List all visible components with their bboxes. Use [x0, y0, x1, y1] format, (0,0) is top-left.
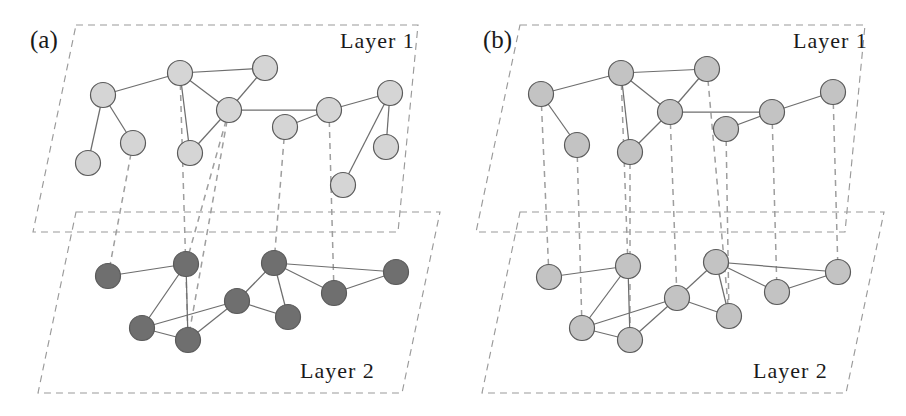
figure-canvas: Layer 1Layer 2(a)Layer 1Layer 2(b): [0, 0, 906, 416]
network-node[interactable]: [273, 115, 298, 140]
inter-layer-edge: [108, 143, 133, 276]
network-node[interactable]: [609, 61, 634, 86]
network-node[interactable]: [658, 100, 683, 125]
network-node[interactable]: [276, 305, 301, 330]
network-node[interactable]: [378, 81, 403, 106]
panel-b: Layer 1Layer 2(b): [476, 25, 884, 393]
network-node[interactable]: [765, 280, 790, 305]
inter-layer-edge: [772, 112, 777, 292]
inter-layer-edge: [726, 129, 729, 316]
network-node[interactable]: [317, 98, 342, 123]
intra-edges-layer1: [88, 68, 390, 185]
layer-title-layer2: Layer 2: [753, 358, 828, 383]
network-node[interactable]: [374, 135, 399, 160]
layer-title-layer1: Layer 1: [340, 28, 415, 53]
network-node[interactable]: [565, 133, 590, 158]
inter-layer-edge: [707, 69, 729, 316]
inter-layer-edge: [329, 110, 334, 293]
network-node[interactable]: [178, 141, 203, 166]
panel-label-a: (a): [30, 26, 58, 54]
layer-frame-layer1: [33, 25, 418, 232]
nodes-layer1: [529, 57, 846, 165]
layer-layer2-a: Layer 2: [96, 251, 409, 384]
network-node[interactable]: [91, 83, 116, 108]
network-node[interactable]: [96, 264, 121, 289]
network-node[interactable]: [262, 251, 287, 276]
network-node[interactable]: [225, 289, 250, 314]
panel-a: Layer 1Layer 2(a): [30, 25, 440, 393]
intra-layer-edge: [274, 263, 396, 272]
network-node[interactable]: [826, 260, 851, 285]
network-node[interactable]: [130, 316, 155, 341]
inter-layer-edge: [577, 145, 582, 328]
layer-layer1-a: Layer 1: [76, 28, 415, 198]
nodes-layer1: [76, 56, 403, 198]
nodes-layer2: [537, 250, 851, 353]
network-node[interactable]: [618, 140, 643, 165]
network-node[interactable]: [322, 281, 347, 306]
inter-layer-edge: [541, 94, 549, 277]
intra-layer-edge: [142, 301, 237, 328]
network-node[interactable]: [695, 57, 720, 82]
network-node[interactable]: [821, 80, 846, 105]
inter-layer-edge: [833, 92, 838, 272]
network-node[interactable]: [76, 151, 101, 176]
network-node[interactable]: [537, 265, 562, 290]
network-node[interactable]: [121, 131, 146, 156]
network-node[interactable]: [618, 328, 643, 353]
layer-layer1-b: Layer 1: [529, 28, 868, 165]
network-node[interactable]: [616, 254, 641, 279]
network-node[interactable]: [714, 117, 739, 142]
layer-layer2-b: Layer 2: [537, 250, 851, 384]
network-node[interactable]: [384, 260, 409, 285]
multiplex-network-figure: Layer 1Layer 2(a)Layer 1Layer 2(b): [0, 0, 906, 416]
inter-layer-edge: [670, 112, 677, 298]
network-node[interactable]: [331, 173, 356, 198]
network-node[interactable]: [665, 286, 690, 311]
network-node[interactable]: [704, 250, 729, 275]
network-node[interactable]: [570, 316, 595, 341]
network-node[interactable]: [253, 56, 278, 81]
network-node[interactable]: [529, 82, 554, 107]
inter-layer-edge: [274, 127, 285, 263]
network-node[interactable]: [717, 304, 742, 329]
panel-label-b: (b): [483, 26, 512, 54]
network-node[interactable]: [174, 252, 199, 277]
network-node[interactable]: [168, 61, 193, 86]
layer-title-layer2: Layer 2: [300, 358, 375, 383]
layer-title-layer1: Layer 1: [793, 28, 868, 53]
network-node[interactable]: [760, 100, 785, 125]
network-node[interactable]: [176, 328, 201, 353]
network-node[interactable]: [217, 98, 242, 123]
nodes-layer2: [96, 251, 409, 353]
